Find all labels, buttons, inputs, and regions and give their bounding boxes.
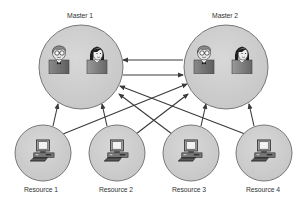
resource-node-resource3 xyxy=(163,125,219,181)
diagram-canvas: Master 1Master 2Resource 1Resource 2Reso… xyxy=(0,0,307,204)
master-node-master1 xyxy=(39,25,123,109)
arrow-resource1-to-master1 xyxy=(53,104,58,126)
resource-node-resource2 xyxy=(89,125,145,181)
resource-node-resource4 xyxy=(236,125,292,181)
arrow-resource3-to-master2 xyxy=(201,104,206,126)
diagram-svg xyxy=(0,0,307,204)
master-label: Master 1 xyxy=(46,11,114,20)
arrow-resource2-to-master1 xyxy=(102,104,107,126)
master-label: Master 2 xyxy=(191,11,259,20)
resource-label: Resource 4 xyxy=(229,185,297,194)
resource-label: Resource 1 xyxy=(7,185,75,194)
resource-label: Resource 3 xyxy=(155,185,223,194)
nodes xyxy=(15,25,292,181)
resource-node-resource1 xyxy=(15,125,71,181)
master-node-master2 xyxy=(184,25,268,109)
resource-label: Resource 2 xyxy=(82,185,150,194)
arrow-resource4-to-master2 xyxy=(249,104,254,126)
